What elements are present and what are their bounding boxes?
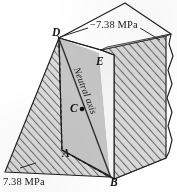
- point-label-b: B: [110, 177, 118, 189]
- centroid-dot: [80, 107, 85, 112]
- point-label-e: E: [96, 56, 104, 68]
- point-label-d: D: [52, 27, 60, 39]
- point-label-a: A: [62, 148, 70, 160]
- stress-distribution-figure: −7.38 MPa 7.38 MPa D E A B C Neutral axi…: [0, 0, 177, 192]
- tension-stress-label: 7.38 MPa: [3, 177, 45, 188]
- compression-stress-label: −7.38 MPa: [90, 20, 138, 31]
- point-label-c: C: [70, 103, 78, 115]
